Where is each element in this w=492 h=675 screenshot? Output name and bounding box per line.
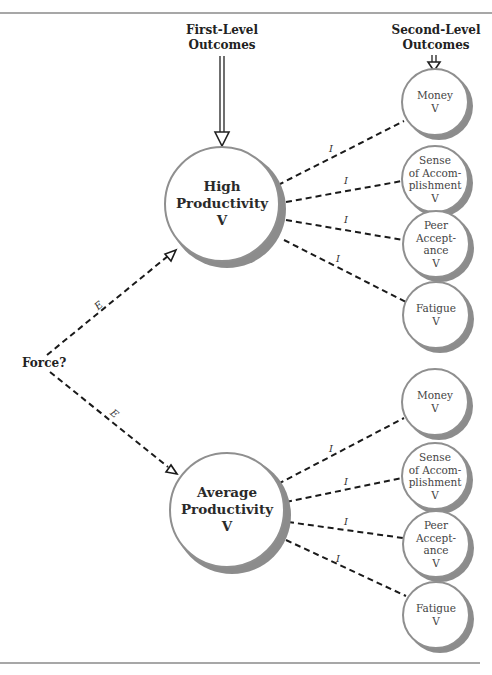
label-line: Fatigue	[401, 302, 471, 315]
label-line: ance	[401, 244, 471, 257]
label-line: Sense	[400, 451, 470, 464]
label-line: V	[400, 489, 470, 502]
header-line: Outcomes	[381, 38, 491, 53]
fatigue-label: Fatigue V	[401, 602, 471, 627]
label-line: plishment	[400, 476, 470, 489]
label-line: V	[400, 102, 470, 115]
instrumentality-links-high	[278, 121, 406, 302]
label-line: V	[401, 615, 471, 628]
label-line: ance	[401, 544, 471, 557]
instrumentality-label: I	[329, 143, 333, 154]
instrumentality-links-average	[278, 418, 406, 596]
instrumentality-label: I	[336, 553, 340, 564]
label-line: Productivity	[162, 195, 282, 212]
force-label: Force?	[22, 356, 66, 371]
peer-acceptance-label: Peer Accept- ance V	[401, 519, 471, 569]
label-line: V	[401, 315, 471, 328]
header-line: Outcomes	[170, 38, 274, 53]
label-line: Average	[167, 484, 287, 501]
label-line: High	[162, 178, 282, 195]
fatigue-label: Fatigue V	[401, 302, 471, 327]
label-line: Productivity	[167, 501, 287, 518]
label-line: Accept-	[401, 532, 471, 545]
second-level-header: Second-Level Outcomes	[381, 23, 491, 53]
instrumentality-label: I	[344, 516, 348, 527]
label-line: Peer	[401, 219, 471, 232]
label-line: Fatigue	[401, 602, 471, 615]
label-line: V	[401, 557, 471, 570]
label-line: plishment	[400, 179, 470, 192]
instrumentality-label: I	[344, 175, 348, 186]
instrumentality-label: I	[336, 253, 340, 264]
first-level-arrow-icon	[215, 56, 229, 146]
header-line: First-Level	[170, 23, 274, 38]
instrumentality-label: I	[344, 214, 348, 225]
label-line: V	[401, 257, 471, 270]
label-line: Accept-	[401, 232, 471, 245]
label-line: Money	[400, 389, 470, 402]
label-line: V	[400, 402, 470, 415]
label-line: V	[167, 518, 287, 535]
peer-acceptance-label: Peer Accept- ance V	[401, 219, 471, 269]
sense-of-accomplishment-label: Sense of Accom- plishment V	[400, 451, 470, 501]
label-line: of Accom-	[400, 167, 470, 180]
first-level-header: First-Level Outcomes	[170, 23, 274, 53]
label-line: Sense	[400, 154, 470, 167]
sense-of-accomplishment-label: Sense of Accom- plishment V	[400, 154, 470, 204]
label-line: V	[400, 192, 470, 205]
label-line: Peer	[401, 519, 471, 532]
money-label: Money V	[400, 389, 470, 414]
label-line: Money	[400, 89, 470, 102]
instrumentality-label: I	[329, 443, 333, 454]
money-label: Money V	[400, 89, 470, 114]
label-line: V	[162, 212, 282, 229]
high-productivity-label: High Productivity V	[162, 178, 282, 229]
expectancy-link-average	[50, 372, 177, 474]
expectancy-link-high	[47, 250, 176, 355]
header-line: Second-Level	[381, 23, 491, 38]
arrowhead-icon	[165, 250, 176, 261]
average-productivity-label: Average Productivity V	[167, 484, 287, 535]
label-line: of Accom-	[400, 464, 470, 477]
instrumentality-label: I	[344, 476, 348, 487]
